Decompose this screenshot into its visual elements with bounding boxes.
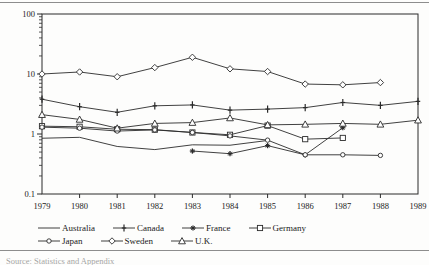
series-australia bbox=[42, 137, 268, 149]
legend-item-sweden[interactable]: Sweden bbox=[99, 235, 154, 247]
legend-marker-plus-icon bbox=[111, 222, 137, 234]
legend-item-japan[interactable]: Japan bbox=[36, 235, 83, 247]
x-axis-ticks bbox=[80, 194, 381, 198]
legend-label: France bbox=[206, 222, 231, 234]
svg-text:1980: 1980 bbox=[71, 201, 88, 211]
svg-text:1988: 1988 bbox=[372, 201, 389, 211]
legend-item-australia[interactable]: Australia bbox=[36, 222, 95, 234]
legend-label: U.K. bbox=[195, 235, 213, 247]
legend-label: Japan bbox=[62, 235, 83, 247]
legend-row: AustraliaCanadaFranceGermany bbox=[0, 221, 429, 234]
svg-text:10: 10 bbox=[27, 69, 36, 79]
svg-text:1: 1 bbox=[31, 129, 35, 139]
svg-text:1989: 1989 bbox=[410, 201, 427, 211]
svg-text:0.1: 0.1 bbox=[24, 189, 35, 199]
svg-text:1984: 1984 bbox=[222, 201, 240, 211]
legend-label: Canada bbox=[137, 222, 164, 234]
svg-text:100: 100 bbox=[22, 9, 35, 19]
legend-item-u-k-[interactable]: U.K. bbox=[169, 235, 213, 247]
svg-text:1986: 1986 bbox=[297, 201, 314, 211]
bottom-divider-rule bbox=[0, 250, 429, 251]
svg-text:1983: 1983 bbox=[184, 201, 201, 211]
source-note: Source: Statistics and Appendix bbox=[6, 256, 426, 265]
data-series-layer bbox=[39, 54, 422, 158]
legend-marker-asterisk-icon bbox=[180, 222, 206, 234]
svg-text:1987: 1987 bbox=[334, 201, 351, 211]
chart-plot-area: 1001010.1 197919801981198219831984198519… bbox=[0, 6, 429, 216]
top-divider-rule bbox=[0, 2, 429, 3]
legend-item-france[interactable]: France bbox=[180, 222, 231, 234]
legend-marker-open-square-icon bbox=[247, 222, 273, 234]
legend-item-germany[interactable]: Germany bbox=[247, 222, 307, 234]
legend-item-canada[interactable]: Canada bbox=[111, 222, 164, 234]
legend-label: Germany bbox=[273, 222, 307, 234]
chart-legend: AustraliaCanadaFranceGermanyJapanSwedenU… bbox=[0, 221, 429, 249]
legend-marker-open-circle-small-icon bbox=[36, 235, 62, 247]
legend-marker-open-triangle-icon bbox=[169, 235, 195, 247]
legend-row: JapanSwedenU.K. bbox=[0, 234, 429, 247]
svg-text:1985: 1985 bbox=[259, 201, 276, 211]
y-axis-ticks bbox=[37, 14, 42, 194]
chart-page: 1001010.1 197919801981198219831984198519… bbox=[0, 0, 429, 265]
svg-text:1982: 1982 bbox=[146, 201, 163, 211]
y-axis-tick-labels: 1001010.1 bbox=[22, 9, 35, 199]
svg-text:1979: 1979 bbox=[34, 201, 51, 211]
legend-marker-open-diamond-icon bbox=[99, 235, 125, 247]
svg-text:1981: 1981 bbox=[109, 201, 126, 211]
x-axis-tick-labels: 1979198019811982198319841985198619871988… bbox=[34, 201, 427, 211]
legend-label: Australia bbox=[62, 222, 95, 234]
line-chart-svg: 1001010.1 197919801981198219831984198519… bbox=[0, 6, 429, 216]
series-sweden bbox=[39, 54, 384, 88]
series-canada bbox=[40, 96, 420, 116]
legend-marker-line-icon bbox=[36, 222, 62, 234]
legend-label: Sweden bbox=[125, 235, 154, 247]
